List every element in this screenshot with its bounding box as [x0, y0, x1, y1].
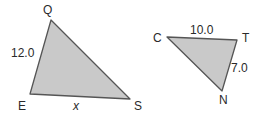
side-label-ct: 10.0	[190, 23, 214, 37]
triangle-ctn: C T N 10.0 7.0	[153, 23, 250, 107]
side-label-qe: 12.0	[11, 46, 35, 60]
vertex-label-t: T	[242, 31, 250, 45]
similar-triangles-diagram: Q E S 12.0 x C T N 10.0 7.0	[0, 0, 263, 118]
triangle-qes: Q E S 12.0 x	[11, 3, 142, 113]
vertex-label-e: E	[18, 99, 26, 113]
triangle-ctn-shape	[167, 37, 237, 91]
vertex-label-c: C	[153, 31, 162, 45]
side-label-tn: 7.0	[231, 61, 248, 75]
vertex-label-q: Q	[43, 3, 52, 17]
vertex-label-s: S	[134, 99, 142, 113]
side-label-es: x	[72, 99, 80, 113]
vertex-label-n: N	[219, 93, 228, 107]
triangle-qes-shape	[30, 20, 130, 99]
